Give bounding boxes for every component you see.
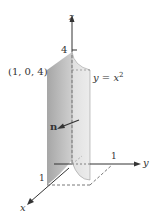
surface-dark-face [47, 52, 72, 185]
surface-equation: y = x2 [93, 72, 124, 83]
y-axis-label: y [143, 158, 149, 168]
x-tick-label: 1 [39, 174, 45, 183]
point-label: (1, 0, 4) [8, 67, 48, 77]
z-tick-label: 4 [61, 45, 67, 55]
surface-equation-base: y = x [93, 72, 119, 83]
y-arrowhead-icon [134, 162, 141, 167]
x-axis-label: x [20, 203, 26, 213]
y-tick-label: 1 [111, 152, 117, 161]
surface-light-face [72, 52, 90, 180]
z-axis-label: z [69, 13, 74, 22]
surface-diagram: z 4 (1, 0, 4) y = x2 n 1 y 1 x [0, 0, 161, 219]
diagram-svg [0, 0, 161, 219]
normal-label: n [50, 122, 57, 132]
surface-equation-exponent: 2 [119, 71, 123, 79]
